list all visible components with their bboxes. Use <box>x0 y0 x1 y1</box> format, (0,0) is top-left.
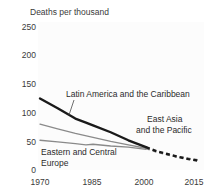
x-tick-1970: 1970 <box>31 177 50 187</box>
y-tick-0: 0 <box>31 165 36 175</box>
x-tick-2015: 2015 <box>185 177 204 187</box>
y-tick-150: 150 <box>22 79 36 89</box>
y-tick-250: 250 <box>22 22 36 32</box>
series-label-latin-america-and-the-caribbean: Latin America and the Caribbean <box>66 89 190 99</box>
y-tick-100: 100 <box>22 108 36 118</box>
series-label-eastern-europe-line2: Europe <box>41 158 69 168</box>
chart-title: Deaths per thousand <box>30 7 109 17</box>
line-chart: Deaths per thousand 250 200 150 100 50 0… <box>0 0 211 193</box>
series-label-east-asia-line1: East Asia <box>147 114 183 124</box>
x-tick-1985: 1985 <box>83 177 102 187</box>
chart-container: Deaths per thousand 250 200 150 100 50 0… <box>0 0 211 193</box>
series-label-east-asia-line2: and the Pacific <box>136 125 193 135</box>
x-tick-2000: 2000 <box>135 177 154 187</box>
y-tick-200: 200 <box>22 50 36 60</box>
y-tick-50: 50 <box>27 137 37 147</box>
series-label-eastern-europe-line1: Eastern and Central <box>41 147 117 157</box>
